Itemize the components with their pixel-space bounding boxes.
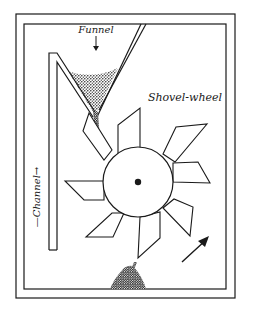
- rotation-arrow: [182, 236, 209, 262]
- shovel-wheel-diagram: Funnel Shovel-wheel —Channel→: [0, 0, 253, 313]
- funnel-label: Funnel: [77, 24, 113, 35]
- sand-pile: [110, 266, 146, 289]
- channel-label: —Channel→: [31, 166, 42, 227]
- shovel-wheel: [65, 108, 210, 258]
- axle: [135, 179, 141, 185]
- funnel-arrow: [93, 36, 99, 51]
- shovel-wheel-label: Shovel-wheel: [148, 91, 223, 104]
